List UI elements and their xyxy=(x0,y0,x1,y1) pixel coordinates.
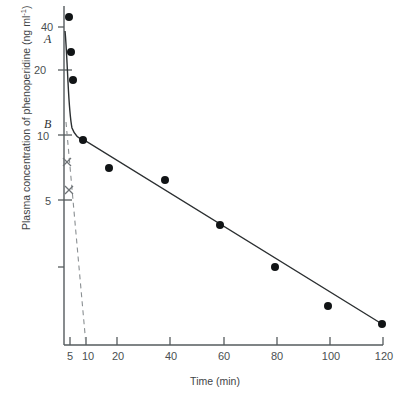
x-ticklabel-60: 60 xyxy=(218,350,230,362)
chart-svg: 40 20 10 5 5 10 20 40 60 80 100 120 Time… xyxy=(0,0,413,402)
x-ticklabel-20: 20 xyxy=(112,350,124,362)
x-axis-title: Time (min) xyxy=(190,375,240,387)
x-ticklabel-5: 5 xyxy=(67,350,73,362)
residual-dashed-line xyxy=(66,122,86,345)
x-ticklabel-10: 10 xyxy=(82,350,94,362)
y-ticklabel-10: 10 xyxy=(37,130,49,142)
y-axis-title-superscript: -1 xyxy=(19,9,28,16)
data-point xyxy=(79,136,87,144)
x-ticklabel-100: 100 xyxy=(322,350,340,362)
svg-text:Plasma concentration of phenop: Plasma concentration of phenoperidine (n… xyxy=(19,6,32,230)
data-point xyxy=(67,48,75,56)
label-A: A xyxy=(43,32,52,46)
x-ticks-group xyxy=(70,337,383,345)
y-axis-title: Plasma concentration of phenoperidine (n… xyxy=(19,6,32,230)
data-point xyxy=(161,176,169,184)
y-ticks-group xyxy=(58,27,72,267)
data-point xyxy=(378,320,386,328)
y-ticklabel-20: 20 xyxy=(34,64,46,76)
data-point xyxy=(216,221,224,229)
data-point xyxy=(324,302,332,310)
x-marker xyxy=(65,186,73,194)
chart-figure: 40 20 10 5 5 10 20 40 60 80 100 120 Time… xyxy=(0,0,413,402)
x-ticklabel-80: 80 xyxy=(271,350,283,362)
x-ticklabel-120: 120 xyxy=(375,350,393,362)
data-point xyxy=(271,263,279,271)
y-axis-title-main: Plasma concentration of phenoperidine (n… xyxy=(20,16,32,230)
data-point xyxy=(69,76,77,84)
data-point xyxy=(105,164,113,172)
x-ticklabel-40: 40 xyxy=(165,350,177,362)
label-B: B xyxy=(44,117,52,131)
y-axis-title-tail: ) xyxy=(20,6,32,10)
y-ticklabel-5: 5 xyxy=(45,195,51,207)
fitted-biexponential-curve xyxy=(65,31,382,324)
data-points-group xyxy=(65,13,386,328)
axes-group xyxy=(64,6,383,345)
data-point xyxy=(65,13,73,21)
